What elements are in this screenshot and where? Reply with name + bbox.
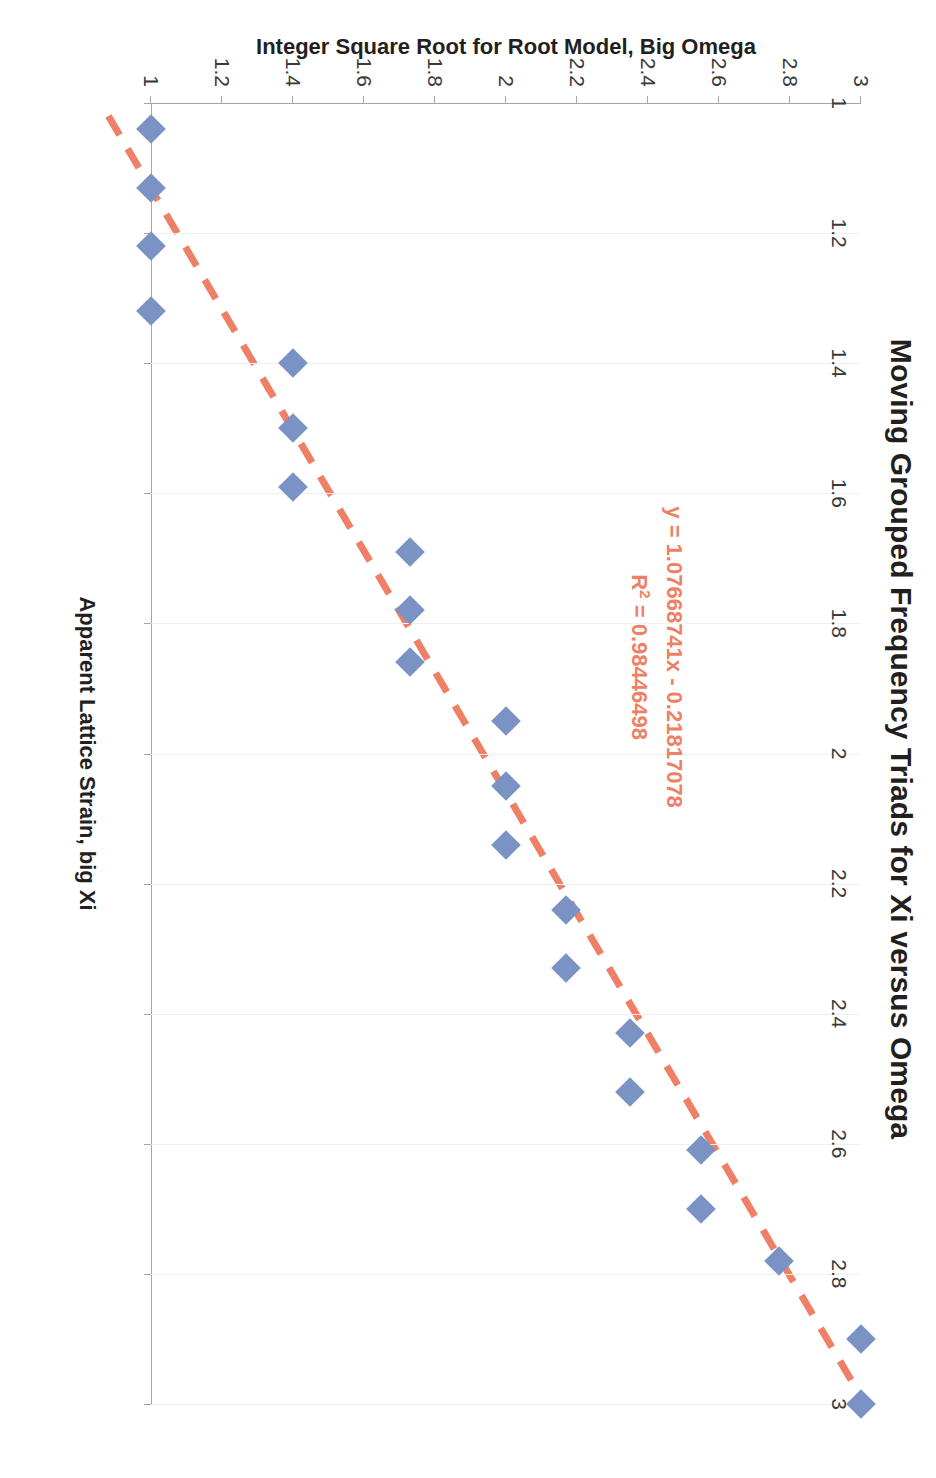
r-squared-label: R bbox=[626, 574, 651, 590]
gridline-vertical bbox=[151, 1144, 861, 1145]
y-axis-tick-label: 1.4 bbox=[281, 58, 305, 87]
gridline-vertical bbox=[151, 1014, 861, 1015]
y-axis-tick bbox=[576, 96, 577, 103]
y-axis-tick bbox=[860, 96, 861, 103]
x-axis-tick bbox=[144, 1404, 151, 1405]
x-axis-tick bbox=[144, 103, 151, 104]
page-canvas: Moving Grouped Frequency Triads for Xi v… bbox=[0, 0, 936, 1478]
y-axis-tick-label: 2 bbox=[494, 75, 518, 87]
x-axis-tick-label: 2.2 bbox=[827, 869, 851, 898]
x-axis-tick bbox=[144, 493, 151, 494]
chart-title: Moving Grouped Frequency Triads for Xi v… bbox=[884, 0, 918, 1478]
x-axis-tick-label: 1.8 bbox=[827, 609, 851, 638]
x-axis-tick-label: 2 bbox=[827, 748, 851, 760]
x-axis-tick-label: 1.6 bbox=[827, 479, 851, 508]
x-axis-tick bbox=[144, 1274, 151, 1275]
y-axis-tick-label: 1.8 bbox=[423, 58, 447, 87]
gridline-vertical bbox=[151, 1404, 861, 1405]
x-axis-tick-label: 1.4 bbox=[827, 349, 851, 378]
y-axis-tick-label: 2.8 bbox=[778, 58, 802, 87]
gridline-vertical bbox=[151, 1274, 861, 1275]
equation-text: y = 1.07668741x - 0.21817078 bbox=[657, 506, 691, 808]
chart-stage: Moving Grouped Frequency Triads for Xi v… bbox=[0, 0, 936, 1478]
y-axis-tick bbox=[292, 96, 293, 103]
x-axis-tick-label: 1.2 bbox=[827, 218, 851, 247]
y-axis-tick bbox=[789, 96, 790, 103]
y-axis-title: Integer Square Root for Root Model, Big … bbox=[151, 34, 861, 60]
trendline-equation-annotation: y = 1.07668741x - 0.21817078 R2 = 0.9844… bbox=[621, 506, 691, 808]
y-axis-tick-label: 1 bbox=[139, 75, 163, 87]
trendline-path bbox=[108, 116, 865, 1404]
y-axis-tick-label: 3 bbox=[849, 75, 873, 87]
gridline-vertical bbox=[151, 884, 861, 885]
x-axis-tick bbox=[144, 1014, 151, 1015]
gridline-vertical bbox=[151, 233, 861, 234]
x-axis-title: Apparent Lattice Strain, big Xi bbox=[74, 103, 100, 1404]
y-axis-tick bbox=[363, 96, 364, 103]
y-axis-tick bbox=[150, 96, 151, 103]
y-axis-tick-label: 2.6 bbox=[707, 58, 731, 87]
r-squared-value: = 0.98446498 bbox=[626, 599, 651, 740]
y-axis-tick bbox=[718, 96, 719, 103]
y-axis-tick-label: 2.4 bbox=[636, 58, 660, 87]
x-axis-tick-label: 1 bbox=[827, 97, 851, 109]
x-axis-tick bbox=[144, 623, 151, 624]
x-axis-tick-label: 2.4 bbox=[827, 999, 851, 1028]
y-axis-tick bbox=[505, 96, 506, 103]
plot-area: 11.21.41.61.822.22.42.62.8311.21.41.61.8… bbox=[151, 103, 861, 1404]
y-axis-tick-label: 1.2 bbox=[210, 58, 234, 87]
r-squared-exponent: 2 bbox=[637, 590, 654, 599]
gridline-vertical bbox=[151, 754, 861, 755]
y-axis-tick bbox=[647, 96, 648, 103]
gridline-vertical bbox=[151, 623, 861, 624]
x-axis-tick bbox=[144, 1144, 151, 1145]
y-axis-line bbox=[151, 103, 861, 104]
x-axis-tick bbox=[144, 754, 151, 755]
gridline-vertical bbox=[151, 493, 861, 494]
x-axis-tick-label: 2.6 bbox=[827, 1129, 851, 1158]
r-squared-text: R2 = 0.98446498 bbox=[621, 506, 656, 808]
y-axis-tick-label: 1.6 bbox=[352, 58, 376, 87]
y-axis-tick bbox=[434, 96, 435, 103]
y-axis-tick-label: 2.2 bbox=[565, 58, 589, 87]
gridline-vertical bbox=[151, 363, 861, 364]
x-axis-tick bbox=[144, 884, 151, 885]
x-axis-tick bbox=[144, 363, 151, 364]
x-axis-tick-label: 2.8 bbox=[827, 1259, 851, 1288]
y-axis-tick bbox=[221, 96, 222, 103]
